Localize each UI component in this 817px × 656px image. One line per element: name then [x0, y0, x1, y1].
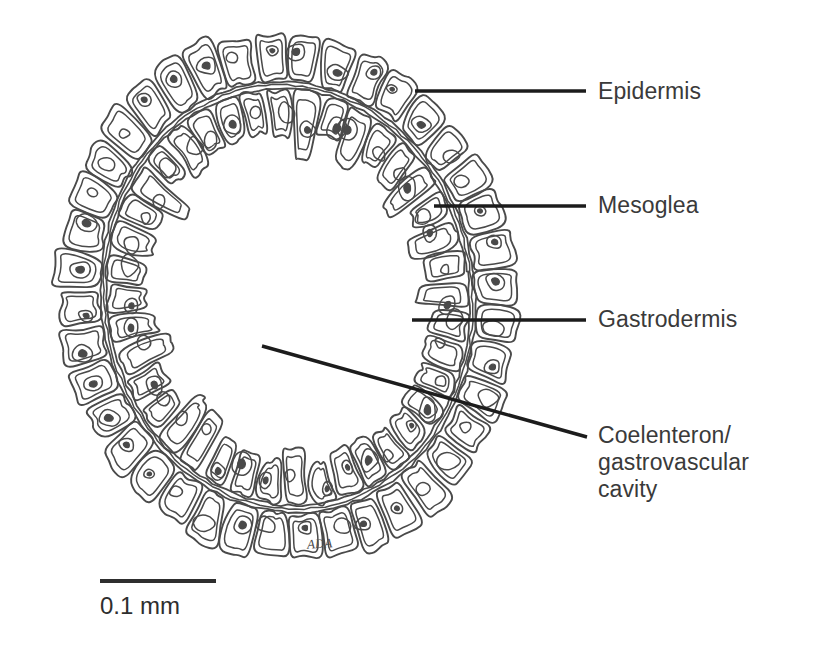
- label-coelenteron: Coelenteron/ gastrovascular cavity: [598, 422, 749, 503]
- cell-ring-group: [52, 33, 520, 558]
- leader-line-coelenteron: [262, 346, 587, 437]
- mesoglea-line: [100, 81, 476, 513]
- label-gastrodermis: Gastrodermis: [598, 306, 737, 333]
- artist-signature: ADA: [306, 535, 332, 553]
- label-epidermis: Epidermis: [598, 78, 701, 105]
- label-mesoglea: Mesoglea: [598, 192, 699, 219]
- scale-bar-label: 0.1 mm: [100, 592, 180, 620]
- figure-root: Epidermis Mesoglea Gastrodermis Coelente…: [0, 0, 817, 656]
